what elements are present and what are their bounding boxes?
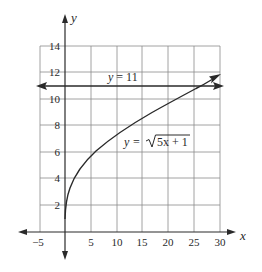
svg-text:6: 6 [55, 146, 61, 158]
x-tick-labels: −5 5 10 15 20 25 30 [32, 236, 226, 248]
sqrt-curve [65, 110, 214, 219]
y-tick-labels: 14 12 10 8 6 4 2 [49, 40, 61, 211]
svg-text:20: 20 [163, 236, 175, 248]
svg-text:10: 10 [49, 93, 61, 105]
svg-text:25: 25 [189, 236, 201, 248]
radical-curve-visible [65, 80, 212, 220]
sqrt-function-curve [65, 107, 214, 219]
x-axis-left-arrow-icon [18, 229, 27, 235]
line-label: y = 11 [107, 70, 138, 84]
svg-text:30: 30 [215, 236, 227, 248]
svg-text:5x + 1: 5x + 1 [157, 135, 188, 149]
svg-text:2: 2 [55, 199, 61, 211]
svg-text:y =: y = [123, 135, 140, 149]
svg-text:−5: −5 [32, 236, 44, 248]
svg-text:15: 15 [137, 236, 149, 248]
y-axis-up-arrow-icon [62, 14, 68, 23]
graph-figure: y x 14 12 10 8 6 4 2 −5 5 10 15 20 25 30… [0, 0, 262, 272]
x-axis-label: x [239, 228, 246, 243]
svg-text:4: 4 [55, 172, 61, 184]
svg-text:14: 14 [49, 40, 61, 52]
y-axis-down-arrow-icon [62, 251, 68, 260]
curve-path [65, 92, 214, 219]
y-axis-label: y [69, 10, 77, 25]
x-axis-right-arrow-icon [227, 229, 236, 235]
svg-text:10: 10 [112, 236, 124, 248]
svg-text:8: 8 [55, 119, 61, 131]
curve-label: y = 5x + 1 [123, 133, 190, 149]
svg-text:12: 12 [49, 66, 60, 78]
svg-text:5: 5 [88, 236, 94, 248]
curve-end-arrow-icon [209, 74, 221, 84]
